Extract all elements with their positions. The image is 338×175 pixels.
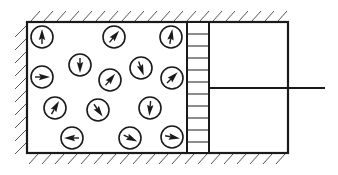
wall-hatching-top xyxy=(31,11,287,21)
molecule xyxy=(161,126,183,148)
molecule xyxy=(161,67,183,89)
molecule xyxy=(69,54,91,76)
molecule xyxy=(31,66,53,88)
molecule xyxy=(139,97,161,119)
gas-molecules xyxy=(31,26,183,149)
gas-piston-diagram xyxy=(0,0,338,175)
molecule xyxy=(130,57,152,79)
diagram-canvas xyxy=(0,0,338,175)
molecule xyxy=(160,26,182,48)
molecule xyxy=(44,97,66,119)
wall-hatching-left xyxy=(15,26,26,154)
molecule xyxy=(61,127,83,149)
molecule xyxy=(119,127,141,149)
molecule xyxy=(103,26,125,48)
molecule xyxy=(99,69,121,91)
molecule xyxy=(31,26,53,48)
piston xyxy=(187,22,209,153)
wall-hatching-bottom xyxy=(29,154,285,164)
molecule xyxy=(87,99,109,121)
